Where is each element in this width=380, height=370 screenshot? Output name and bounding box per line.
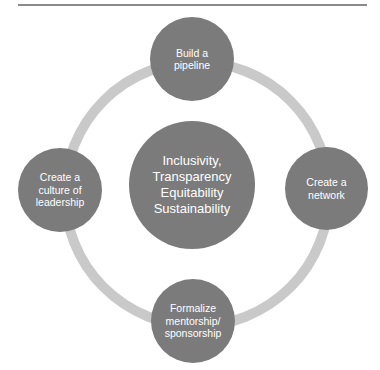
top-divider-line [18, 4, 367, 6]
node-culture-of-leadership: Create a culture of leadership [18, 148, 102, 232]
node-label: Build a pipeline [174, 47, 210, 72]
node-build-pipeline: Build a pipeline [150, 17, 234, 101]
node-create-network: Create a network [285, 147, 368, 230]
node-formalize-mentorship: Formalize mentorship/ sponsorship [151, 279, 235, 363]
center-label: Inclusivity, Transparency Equitability S… [153, 153, 232, 217]
center-circle: Inclusivity, Transparency Equitability S… [129, 121, 255, 249]
node-label: Formalize mentorship/ sponsorship [165, 302, 222, 340]
node-label: Create a culture of leadership [36, 171, 84, 209]
node-label: Create a network [306, 176, 346, 201]
